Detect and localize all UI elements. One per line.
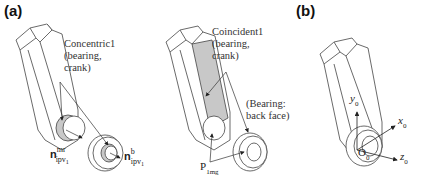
point-sub: 1mg: [206, 168, 218, 176]
axis-index: 0: [404, 158, 408, 166]
panel-label-b: (b): [296, 2, 315, 19]
coincident-annotation: Coincident1 (bearing, crank): [212, 26, 263, 62]
axis-index: 0: [355, 100, 359, 108]
point-p-label: P1mg: [200, 160, 219, 172]
vector-subsub: 1: [141, 161, 144, 167]
vector-sup: b: [131, 147, 135, 156]
origin-letter: O: [358, 146, 366, 158]
axis-index: 0: [403, 122, 407, 130]
concentric-annotation: Concentric1 (bearing, crank): [64, 38, 115, 74]
origin-index: 0: [366, 154, 370, 162]
vector-sup: mr: [57, 145, 66, 154]
origin-label: O0: [358, 146, 369, 158]
axis-z-label: z0: [400, 150, 408, 162]
bearing-right: [233, 133, 267, 171]
vector-n-b: nbipv1: [124, 150, 144, 162]
vector-n-mr: nmripv1: [50, 148, 69, 160]
vector-sub: ipv: [56, 155, 66, 164]
bearing-left: [88, 135, 123, 171]
bearing-face-annotation: (Bearing: back face): [246, 98, 289, 122]
vector-base: n: [124, 150, 131, 162]
vector-subsub: 1: [66, 159, 69, 165]
panel-label-a: (a): [4, 2, 22, 19]
axis-y-label: y0: [350, 92, 358, 104]
vector-sub: ipv: [131, 157, 141, 166]
axis-x-label: x0: [398, 114, 406, 126]
